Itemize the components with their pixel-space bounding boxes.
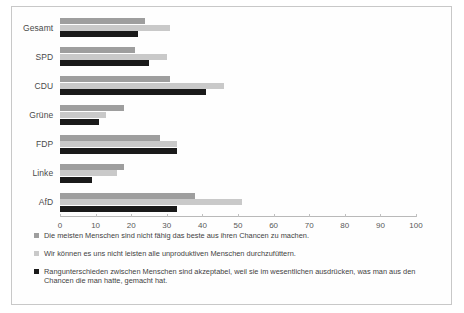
bar-gesamt-series-2 (60, 31, 138, 37)
legend-item-1[interactable]: Wir können es uns nicht leisten alle unp… (34, 249, 442, 258)
legend-swatch-icon-0 (34, 233, 39, 238)
x-tick-label-0: 0 (58, 221, 62, 230)
category-label-fdp: FDP (36, 139, 59, 149)
bar-linke-series-0 (60, 164, 124, 170)
x-tick-label-10: 10 (91, 221, 100, 230)
bar-spd-series-2 (60, 60, 149, 66)
legend-label-0: Die meisten Menschen sind nicht fähig da… (44, 231, 442, 240)
bar-gesamt-series-1 (60, 25, 170, 31)
bar-cdu-series-0 (60, 76, 170, 82)
x-tick-mark (238, 214, 239, 217)
category-label-afd: AfD (39, 197, 59, 207)
x-tick-mark (131, 214, 132, 217)
x-tick-label-50: 50 (234, 221, 243, 230)
category-label-cdu: CDU (35, 81, 60, 91)
bar-fdp-series-0 (60, 135, 160, 141)
category-label-linke: Linke (32, 168, 59, 178)
x-tick-mark (96, 214, 97, 217)
bar-linke-series-1 (60, 170, 117, 176)
legend-label-2: Rangunterschieden zwischen Menschen sind… (44, 267, 442, 286)
bar-group: Gesamt (60, 18, 416, 37)
chart-legend: Die meisten Menschen sind nicht fähig da… (34, 231, 442, 294)
legend-label-1: Wir können es uns nicht leisten alle unp… (44, 249, 442, 258)
bar-spd-series-1 (60, 54, 167, 60)
x-tick-label-80: 80 (340, 221, 349, 230)
bar-afd-series-2 (60, 206, 177, 212)
legend-item-2[interactable]: Rangunterschieden zwischen Menschen sind… (34, 267, 442, 286)
bar-gr-ne-series-2 (60, 119, 99, 125)
legend-item-0[interactable]: Die meisten Menschen sind nicht fähig da… (34, 231, 442, 240)
legend-swatch-icon-2 (34, 269, 39, 274)
category-label-spd: SPD (36, 52, 60, 62)
bar-group: SPD (60, 47, 416, 66)
x-tick-mark (60, 214, 61, 217)
bar-group: Linke (60, 164, 416, 183)
category-label-gesamt: Gesamt (23, 23, 59, 33)
x-tick-mark (274, 214, 275, 217)
bar-group: AfD (60, 193, 416, 212)
bar-group: CDU (60, 76, 416, 95)
bar-cdu-series-1 (60, 83, 224, 89)
x-tick-label-60: 60 (269, 221, 278, 230)
bar-spd-series-0 (60, 47, 135, 53)
x-tick-mark (202, 214, 203, 217)
bar-linke-series-2 (60, 177, 92, 183)
bar-gesamt-series-0 (60, 18, 145, 24)
bar-cdu-series-2 (60, 89, 206, 95)
category-label-gr-ne: Grüne (29, 110, 59, 120)
bar-group: FDP (60, 135, 416, 154)
legend-swatch-icon-1 (34, 251, 39, 256)
x-tick-mark (167, 214, 168, 217)
x-tick-mark (416, 214, 417, 217)
x-tick-label-100: 100 (409, 221, 422, 230)
bar-gr-ne-series-0 (60, 105, 124, 111)
chart-figure: GesamtSPDCDUGrüneFDPLinkeAfD010203040506… (11, 6, 452, 305)
bar-group: Grüne (60, 105, 416, 124)
x-tick-mark (309, 214, 310, 217)
bar-afd-series-0 (60, 193, 195, 199)
bar-gr-ne-series-1 (60, 112, 106, 118)
bar-afd-series-1 (60, 199, 242, 205)
x-tick-label-30: 30 (162, 221, 171, 230)
x-tick-label-20: 20 (127, 221, 136, 230)
x-tick-label-40: 40 (198, 221, 207, 230)
bar-fdp-series-2 (60, 148, 177, 154)
x-tick-label-90: 90 (376, 221, 385, 230)
x-tick-mark (380, 214, 381, 217)
bar-fdp-series-1 (60, 141, 177, 147)
plot-area: GesamtSPDCDUGrüneFDPLinkeAfD010203040506… (60, 13, 416, 217)
x-tick-mark (345, 214, 346, 217)
x-tick-label-70: 70 (305, 221, 314, 230)
